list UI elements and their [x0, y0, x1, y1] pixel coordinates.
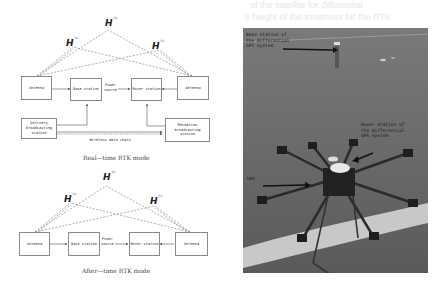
antenna-right-box: Antenna: [175, 232, 208, 256]
base-station-box: Base station: [70, 78, 102, 101]
background-text-1: of the satellite for differential: [250, 0, 362, 10]
antenna-left-box: Antenna: [21, 76, 52, 100]
base-station-box: Base station: [68, 232, 100, 256]
satellite-s3-icon: HS3: [150, 196, 161, 206]
delivery-station-box: Delivery broadcasting station: [21, 118, 57, 139]
realtime-caption: Real—time RTK mode: [83, 154, 150, 161]
aftertime-caption: After—time RTK mode: [82, 267, 150, 274]
satellite-s2-icon: HS2: [105, 18, 116, 28]
power-source-label: Power source: [103, 83, 118, 92]
rover-station-box: Rover station: [129, 232, 160, 256]
rover-station-box-text: Rover station: [131, 78, 162, 101]
uav-label: UAV: [247, 176, 255, 182]
base-station-label: Base station of the differential GPS sys…: [246, 32, 294, 49]
satellite-s1-icon: HS1: [66, 38, 77, 48]
reception-station-box: Reception broadcasting station: [165, 118, 210, 142]
satellite-s2-icon: HS2: [103, 172, 114, 182]
antenna-right-box: Antenna: [177, 76, 209, 100]
satellite-s1-icon: HS1: [64, 194, 75, 204]
rtk-diagram-panel: HS1 HS2 HS3 Antenna Base station Power s…: [0, 0, 235, 289]
wireless-chain-label: Wireless data chain: [85, 138, 135, 143]
rover-station-label: Rover station of the differential GPS sy…: [361, 122, 411, 139]
background-text-2: e height of the treatment for the RTK: [245, 12, 391, 22]
satellite-s3-icon: HS3: [152, 41, 163, 51]
antenna-left-box: Antenna: [19, 232, 50, 256]
field-photo: Base station of the differential GPS sys…: [243, 28, 428, 273]
power-source-label: Power source: [100, 237, 115, 246]
drone-photo-illustration: [243, 28, 428, 273]
